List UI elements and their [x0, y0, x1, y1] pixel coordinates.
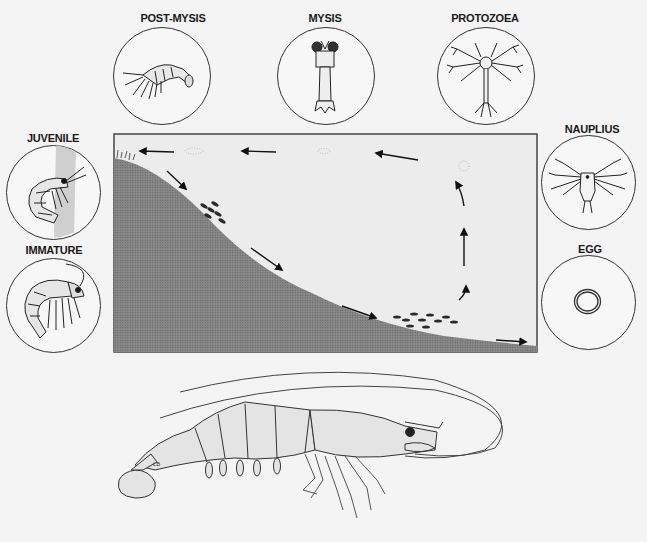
adult-shrimp-illustration: LB [100, 370, 530, 542]
nauplius-illustration [541, 135, 634, 228]
juvenile-illustration [6, 145, 99, 238]
tail-fan [118, 470, 155, 498]
protozoea-illustration [437, 27, 533, 123]
habitat-cross-section [114, 134, 537, 352]
walking-legs [303, 454, 385, 518]
mysis-illustration [277, 27, 373, 123]
label-post-mysis: POST-MYSIS [128, 12, 218, 24]
egg-illustration [541, 255, 634, 348]
label-nauplius: NAUPLIUS [552, 123, 632, 135]
immature-illustration [6, 258, 99, 351]
label-mysis: MYSIS [290, 12, 360, 24]
label-protozoea: PROTOZOEA [440, 12, 530, 24]
abdomen [135, 402, 315, 470]
label-juvenile: JUVENILE [18, 132, 88, 144]
label-immature: IMMATURE [14, 244, 94, 256]
label-egg: EGG [560, 243, 620, 255]
artist-signature: LB [153, 461, 160, 467]
post-mysis-illustration [113, 27, 209, 123]
